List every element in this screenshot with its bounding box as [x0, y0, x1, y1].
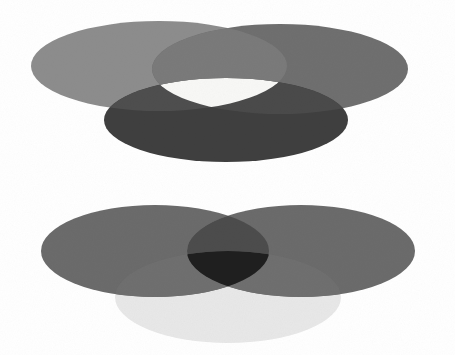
lower-venn-figure: [0, 0, 455, 355]
venn-diagram-page: [0, 0, 455, 355]
lower-venn-svg: [0, 0, 455, 355]
